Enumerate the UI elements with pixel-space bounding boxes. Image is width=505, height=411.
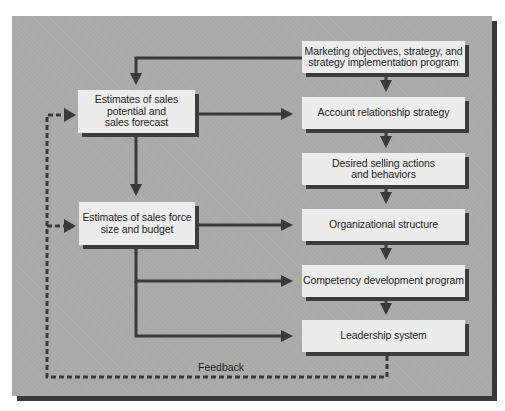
box-leadership-system: Leadership system bbox=[302, 320, 465, 352]
box-marketing-objectives-line-2: strategy implementation program bbox=[305, 57, 463, 69]
box-sales-potential-line-3: sales forecast bbox=[95, 117, 178, 129]
box-desired-selling: Desired selling actions and behaviors bbox=[302, 153, 465, 185]
box-competency-development: Competency development program bbox=[302, 265, 465, 297]
arrowhead-feedback-sales-force bbox=[64, 219, 76, 233]
edge-sales-force-to-competency bbox=[136, 249, 290, 281]
box-sales-force-size-line-2: size and budget bbox=[82, 224, 191, 236]
box-marketing-objectives: Marketing objectives, strategy, and stra… bbox=[302, 41, 465, 73]
edge-marketing-to-sales-potential bbox=[136, 58, 302, 82]
arrowhead-feedback-sales-potential bbox=[64, 108, 76, 122]
box-organizational-structure: Organizational structure bbox=[302, 209, 465, 241]
box-leadership-system-label: Leadership system bbox=[340, 330, 426, 342]
box-sales-force-size: Estimates of sales force size and budget bbox=[79, 202, 195, 245]
box-competency-development-label: Competency development program bbox=[303, 275, 464, 287]
box-sales-potential: Estimates of sales potential and sales f… bbox=[78, 90, 195, 133]
box-account-relationship: Account relationship strategy bbox=[302, 97, 465, 129]
edge-sales-force-to-leadership bbox=[136, 281, 290, 336]
box-sales-force-size-line-1: Estimates of sales force bbox=[82, 212, 191, 224]
box-account-relationship-label: Account relationship strategy bbox=[318, 107, 450, 119]
feedback-label: Feedback bbox=[198, 361, 244, 373]
box-organizational-structure-label: Organizational structure bbox=[329, 219, 438, 231]
box-desired-selling-line-2: and behaviors bbox=[332, 169, 435, 181]
